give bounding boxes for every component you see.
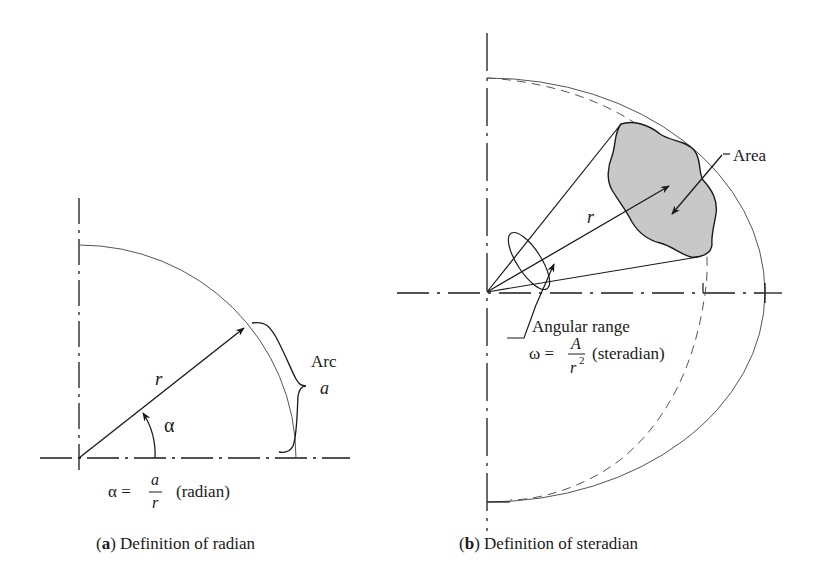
steradian-formula: ω = A r 2 (steradian) <box>529 335 665 376</box>
panel-a-radian: r α Arc a α = a r (radian) (a) Definitio… <box>40 198 350 553</box>
caption-a: (a) Definition of radian <box>96 534 256 553</box>
angular-range-arrow <box>536 264 554 305</box>
formula-unit-a: (radian) <box>176 482 230 501</box>
angle-alpha-arc <box>143 413 155 458</box>
formula-numerator-b: A <box>570 335 581 352</box>
caption-b: (b) Definition of steradian <box>459 534 638 553</box>
radian-steradian-figure: r α Arc a α = a r (radian) (a) Definitio… <box>0 0 817 580</box>
arc-symbol-label: a <box>320 378 329 398</box>
arc-brace <box>252 323 306 453</box>
radius-label-b: r <box>587 207 595 227</box>
caption-b-text: Definition of steradian <box>480 534 639 553</box>
formula-lhs-a: α = <box>108 482 131 501</box>
caption-a-text: Definition of radian <box>116 534 256 553</box>
area-label: Area <box>733 146 766 165</box>
formula-unit-b: (steradian) <box>592 344 665 363</box>
panel-b-steradian: r Area Angular range ω = A r 2 (steradia… <box>397 33 782 553</box>
radius-label-a: r <box>155 368 163 389</box>
formula-denominator-a: r <box>152 494 159 511</box>
formula-exponent-b: 2 <box>579 354 585 366</box>
cone-edge-lower <box>487 257 698 292</box>
quarter-circle-arc-a <box>79 245 296 458</box>
formula-lhs-b: ω = <box>529 344 554 363</box>
radius-arrow-a <box>79 328 244 458</box>
formula-denominator-b: r <box>570 359 577 376</box>
formula-numerator-a: a <box>151 471 159 488</box>
cone-edge-upper <box>487 124 621 292</box>
angular-range-label: Angular range <box>532 317 630 336</box>
alpha-label: α <box>164 414 175 436</box>
radian-formula: α = a r (radian) <box>108 471 230 511</box>
caption-b-letter: b <box>465 534 474 553</box>
arc-title-label: Arc <box>311 352 337 371</box>
radius-arrow-b <box>487 186 669 292</box>
